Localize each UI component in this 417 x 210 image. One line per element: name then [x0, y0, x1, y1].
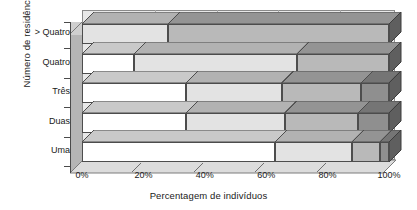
y-category-label: Quatro — [0, 57, 70, 67]
bar-segment — [380, 142, 389, 162]
y-category-label: > Quatro — [0, 27, 70, 37]
x-tick-label: 100% — [377, 170, 400, 180]
x-tick-label: 0% — [75, 170, 88, 180]
bar-segment — [275, 142, 352, 162]
bar-segment-top-face — [82, 71, 198, 84]
bar-segment-top-face — [186, 71, 293, 84]
bar-segment — [82, 142, 275, 162]
x-tick-label: 60% — [257, 170, 275, 180]
y-category-label: Duas — [0, 116, 70, 126]
y-category-label: Uma — [0, 145, 70, 155]
bar-segment-top-face — [134, 42, 309, 55]
bar-segment-top-face — [275, 130, 364, 143]
bar-segment-top-face — [82, 12, 180, 25]
x-tick-label: 40% — [196, 170, 214, 180]
x-tick-label: 20% — [134, 170, 152, 180]
y-category-label: Três — [0, 86, 70, 96]
x-tick-label: 80% — [319, 170, 337, 180]
bar-segment-top-face — [186, 101, 296, 114]
bar-segment-top-face — [82, 130, 287, 143]
y-axis-category-labels: > QuatroQuatroTrêsDuasUma — [0, 0, 70, 210]
bar-segment-top-face — [82, 101, 198, 114]
bar-end-cap — [389, 130, 403, 164]
bar-segment-top-face — [297, 42, 401, 55]
bar-segment — [352, 142, 380, 162]
y-axis-title: Número de residências — [21, 0, 32, 108]
stacked-bar-chart: > QuatroQuatroTrêsDuasUma 0%20%40%60%80%… — [0, 0, 417, 210]
x-axis-title: Percentagem de indivíduos — [0, 190, 417, 201]
bar-segment-top-face — [168, 12, 401, 25]
bar-segment-top-face — [282, 71, 374, 84]
